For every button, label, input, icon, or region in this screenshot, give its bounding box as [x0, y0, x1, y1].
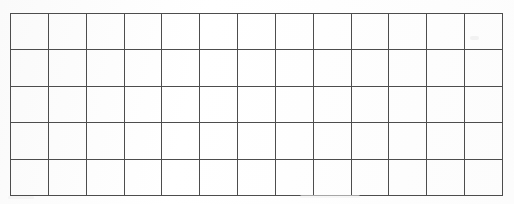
grid-cell[interactable]	[465, 86, 503, 122]
grid-cell[interactable]	[11, 159, 49, 195]
grid-cell[interactable]	[48, 86, 86, 122]
grid-cell[interactable]	[200, 50, 238, 86]
grid-cell[interactable]	[313, 50, 351, 86]
grid-cell[interactable]	[86, 50, 124, 86]
grid-cell[interactable]	[351, 14, 389, 50]
grid-cell[interactable]	[389, 86, 427, 122]
grid-cell[interactable]	[86, 14, 124, 50]
grid-cell[interactable]	[11, 86, 49, 122]
grid-cell[interactable]	[11, 123, 49, 159]
grid-cell[interactable]	[427, 123, 465, 159]
page-root	[0, 0, 514, 204]
grid-table[interactable]	[10, 13, 503, 196]
grid-cell[interactable]	[351, 86, 389, 122]
grid-cell[interactable]	[124, 86, 162, 122]
grid-cell[interactable]	[313, 123, 351, 159]
grid-cell[interactable]	[162, 123, 200, 159]
grid-cell[interactable]	[238, 159, 276, 195]
grid-table-body	[11, 14, 503, 196]
grid-cell[interactable]	[200, 159, 238, 195]
grid-cell[interactable]	[427, 50, 465, 86]
grid-cell[interactable]	[275, 159, 313, 195]
grid-cell[interactable]	[162, 86, 200, 122]
grid-cell[interactable]	[48, 14, 86, 50]
grid-cell[interactable]	[465, 159, 503, 195]
grid-cell[interactable]	[389, 123, 427, 159]
grid-cell[interactable]	[427, 86, 465, 122]
grid-cell[interactable]	[86, 123, 124, 159]
grid-cell[interactable]	[238, 50, 276, 86]
grid-cell[interactable]	[124, 14, 162, 50]
grid-cell[interactable]	[351, 123, 389, 159]
grid-cell[interactable]	[200, 14, 238, 50]
grid-cell[interactable]	[275, 123, 313, 159]
grid-cell[interactable]	[86, 159, 124, 195]
grid-cell[interactable]	[389, 14, 427, 50]
grid-cell[interactable]	[313, 159, 351, 195]
table-row[interactable]	[11, 50, 503, 86]
table-row[interactable]	[11, 123, 503, 159]
grid-cell[interactable]	[313, 14, 351, 50]
grid-cell[interactable]	[48, 50, 86, 86]
grid-cell[interactable]	[48, 123, 86, 159]
grid-cell[interactable]	[351, 159, 389, 195]
table-row[interactable]	[11, 86, 503, 122]
table-row[interactable]	[11, 14, 503, 50]
grid-cell[interactable]	[351, 50, 389, 86]
table-row[interactable]	[11, 159, 503, 195]
grid-cell[interactable]	[124, 159, 162, 195]
grid-cell[interactable]	[238, 123, 276, 159]
grid-cell[interactable]	[238, 14, 276, 50]
grid-cell[interactable]	[11, 50, 49, 86]
grid-cell[interactable]	[313, 86, 351, 122]
grid-cell[interactable]	[275, 14, 313, 50]
grid-cell[interactable]	[427, 14, 465, 50]
grid-cell[interactable]	[124, 123, 162, 159]
grid-cell[interactable]	[11, 14, 49, 50]
grid-cell[interactable]	[275, 50, 313, 86]
grid-cell[interactable]	[200, 123, 238, 159]
grid-cell[interactable]	[275, 86, 313, 122]
grid-cell[interactable]	[162, 14, 200, 50]
grid-cell[interactable]	[465, 14, 503, 50]
grid-cell[interactable]	[162, 159, 200, 195]
grid-cell[interactable]	[465, 50, 503, 86]
grid-cell[interactable]	[427, 159, 465, 195]
grid-cell[interactable]	[48, 159, 86, 195]
grid-cell[interactable]	[389, 50, 427, 86]
grid-cell[interactable]	[389, 159, 427, 195]
grid-cell[interactable]	[162, 50, 200, 86]
grid-cell[interactable]	[465, 123, 503, 159]
grid-cell[interactable]	[238, 86, 276, 122]
grid-cell[interactable]	[86, 86, 124, 122]
grid-cell[interactable]	[200, 86, 238, 122]
grid-cell[interactable]	[124, 50, 162, 86]
